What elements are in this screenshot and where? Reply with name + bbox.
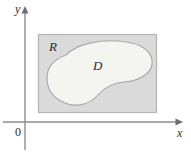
- label-region-d: D: [93, 59, 102, 72]
- x-axis-arrowhead: [176, 119, 184, 126]
- math-region-figure: R D x y 0: [0, 0, 191, 161]
- y-axis-arrowhead: [22, 6, 29, 14]
- figure-canvas: [0, 0, 191, 161]
- label-origin: 0: [15, 126, 21, 138]
- label-region-r: R: [49, 40, 57, 53]
- label-x-axis: x: [177, 127, 182, 139]
- label-y-axis: y: [15, 3, 20, 15]
